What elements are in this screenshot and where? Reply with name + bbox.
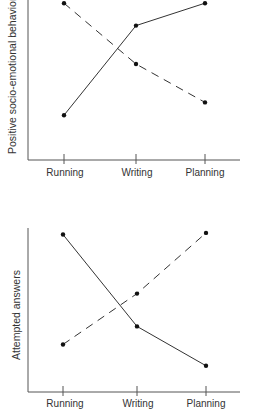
chart-bottom: Attempted answers Running Writing Planni… — [0, 0, 254, 413]
chart-bottom-ylabel: Attempted answers — [10, 270, 22, 360]
chart-bottom-plot — [0, 0, 254, 413]
dashed-series-line — [63, 233, 206, 345]
solid-series-line — [63, 235, 206, 366]
solid-data-point — [204, 364, 208, 368]
chart-bottom-xtick-running: Running — [46, 398, 83, 409]
dashed-data-point — [204, 231, 208, 235]
chart-bottom-xtick-planning: Planning — [187, 398, 226, 409]
dashed-data-point — [135, 291, 139, 295]
solid-data-point — [61, 232, 65, 236]
solid-data-point — [135, 324, 139, 328]
chart-bottom-xtick-writing: Writing — [123, 398, 154, 409]
dashed-data-point — [61, 342, 65, 346]
